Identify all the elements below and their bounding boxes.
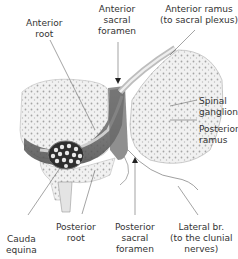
- label-anterior-root: Anterior root: [26, 18, 62, 40]
- posterior-foramen-arrow: [132, 157, 138, 163]
- median-crest: [58, 182, 72, 212]
- label-anterior-sacral-foramen: Anterior sacral foramen: [98, 4, 136, 37]
- label-anterior-ramus: Anterior ramus (to sacral plexus): [160, 4, 238, 26]
- label-posterior-root: Posterior root: [56, 222, 96, 244]
- label-cauda-equina: Cauda equina: [6, 234, 37, 256]
- anterior-foramen-arrow: [115, 78, 121, 84]
- label-spinal-ganglion: Spinal ganglion: [199, 96, 238, 118]
- label-lateral-branch: Lateral br. (to the clunial nerves): [170, 222, 232, 255]
- label-posterior-ramus: Posterior ramus: [199, 124, 238, 146]
- label-posterior-sacral-foramen: Posterior sacral foramen: [115, 222, 155, 255]
- foramen-gap: [108, 86, 128, 160]
